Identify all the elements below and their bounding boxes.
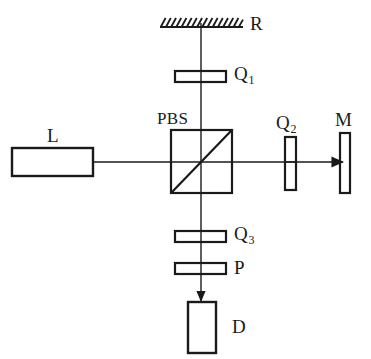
detector-d-body [188, 302, 216, 353]
label-detector: D [232, 317, 246, 336]
mirror-m-body [340, 133, 350, 193]
label-beamsplitter: PBS [157, 109, 188, 128]
label-waveplate-q2: Q2 [276, 113, 296, 132]
mirror-r-hatching [161, 18, 243, 27]
optics-schematic-svg [0, 0, 371, 359]
label-q2-letter: Q [276, 112, 290, 133]
label-polarizer: P [234, 258, 245, 277]
optical-diagram: R Q1 PBS L Q2 M Q3 P D [0, 0, 371, 359]
laser-source-body [12, 148, 93, 176]
label-q1-subscript: 1 [248, 73, 254, 87]
label-q3-subscript: 3 [248, 233, 254, 247]
waveplate-q2-body [285, 137, 296, 190]
label-q3-letter: Q [234, 223, 248, 244]
label-mirror-r: R [250, 14, 263, 33]
label-waveplate-q3: Q3 [234, 224, 254, 243]
label-laser: L [47, 126, 59, 145]
label-q2-subscript: 2 [290, 122, 296, 136]
label-mirror-m: M [335, 110, 352, 129]
label-q1-letter: Q [234, 63, 248, 84]
label-waveplate-q1: Q1 [234, 64, 254, 83]
